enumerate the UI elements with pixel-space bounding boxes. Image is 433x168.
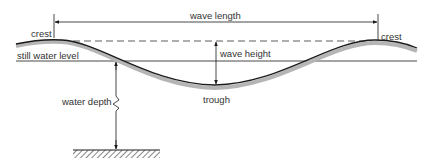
- still-water-level-label: still water level: [17, 51, 79, 61]
- seabed-hatch: [73, 150, 160, 158]
- crest-right-label: crest: [381, 32, 402, 42]
- wave-height-label: wave height: [220, 49, 271, 59]
- wave-shadow: [16, 42, 417, 88]
- wave-length-label: wave length: [190, 11, 241, 21]
- wave-diagram: [0, 0, 433, 168]
- trough-label: trough: [203, 95, 230, 105]
- water-depth-label: water depth: [62, 97, 112, 107]
- water-depth-arrow: [113, 62, 119, 149]
- crest-left-label: crest: [31, 29, 52, 39]
